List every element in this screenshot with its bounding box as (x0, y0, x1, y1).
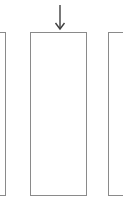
middle-column (30, 32, 87, 196)
diagram-canvas (0, 0, 123, 206)
left-column (0, 32, 6, 196)
right-column (108, 32, 123, 196)
